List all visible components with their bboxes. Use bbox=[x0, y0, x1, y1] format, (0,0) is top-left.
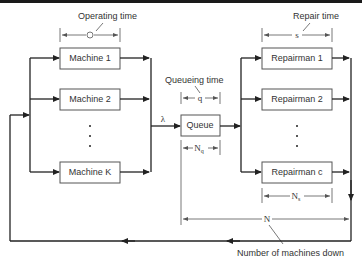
repair-time-label: Repair time bbox=[293, 11, 339, 21]
machine-ellipsis-dot bbox=[89, 135, 91, 137]
queue-count-symbol: Nq bbox=[194, 143, 204, 154]
repairman-2-label: Repairman 2 bbox=[271, 94, 323, 104]
total-down-symbol: N bbox=[264, 214, 271, 224]
machine-2-label: Machine 2 bbox=[69, 94, 111, 104]
repairman-1-label: Repairman 1 bbox=[271, 53, 323, 63]
queueing-time-pointer bbox=[195, 86, 200, 93]
repairman-ellipsis-dot bbox=[296, 145, 298, 147]
queue-label: Queue bbox=[186, 120, 213, 130]
queueing-time-symbol: q bbox=[198, 93, 203, 103]
operating-time-label: Operating time bbox=[78, 11, 137, 21]
repair-time-symbol: s bbox=[295, 30, 299, 40]
queueing-time-label: Queueing time bbox=[165, 75, 224, 85]
repair-time-pointer bbox=[303, 23, 310, 31]
machine-ellipsis-dot bbox=[89, 125, 91, 127]
arrival-rate-symbol: λ bbox=[161, 114, 166, 124]
operating-time-pointer bbox=[96, 23, 103, 31]
diagram-svg: Operating time Machine 1 Machine 2 Machi… bbox=[0, 0, 362, 263]
machine-ellipsis-dot bbox=[89, 145, 91, 147]
total-down-label: Number of machines down bbox=[237, 248, 344, 258]
service-count-symbol: Ns bbox=[292, 191, 302, 202]
repairman-ellipsis-dot bbox=[296, 125, 298, 127]
machine-1-label: Machine 1 bbox=[69, 53, 111, 63]
repairman-c-label: Repairman c bbox=[271, 167, 323, 177]
machine-k-label: Machine K bbox=[69, 167, 112, 177]
repairman-ellipsis-dot bbox=[296, 135, 298, 137]
diagram-canvas: Operating time Machine 1 Machine 2 Machi… bbox=[0, 0, 362, 263]
operating-time-symbol bbox=[87, 32, 93, 38]
